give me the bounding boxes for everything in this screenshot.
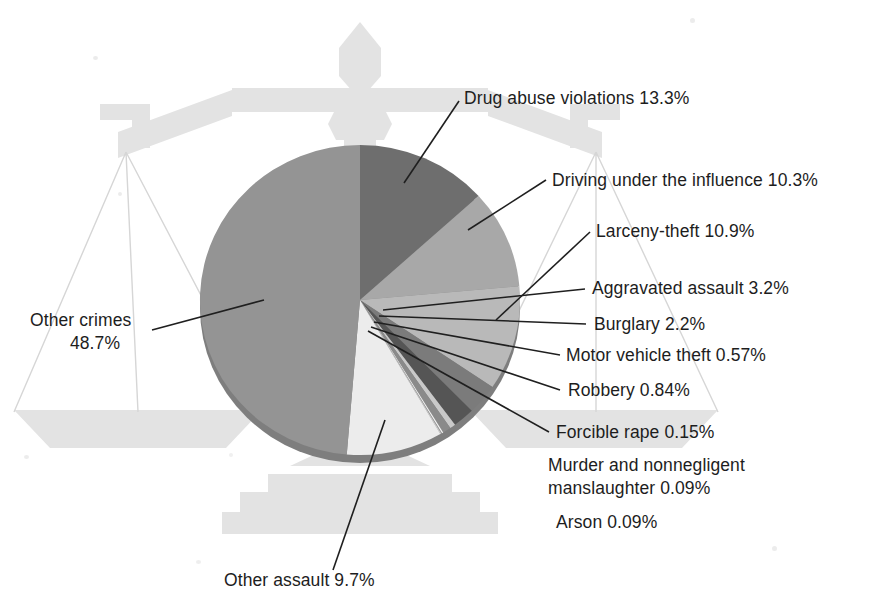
leader-aggravated (383, 289, 585, 310)
label-other-crimes-line1: Other crimes (30, 310, 160, 331)
leader-drug-abuse (404, 101, 459, 183)
label-other-crimes-line2: 48.7% (30, 333, 160, 354)
leader-other-assault (333, 420, 385, 570)
label-drug-abuse-violations: Drug abuse violations 13.3% (464, 88, 689, 109)
label-murder-line2: manslaughter 0.09% (548, 478, 710, 499)
label-arson: Arson 0.09% (556, 512, 657, 533)
label-driving-under-the-influence: Driving under the influence 10.3% (552, 170, 818, 191)
label-murder-line1: Murder and nonnegligent (548, 455, 745, 476)
label-forcible-rape: Forcible rape 0.15% (556, 422, 715, 443)
pie-chart-figure: Drug abuse violations 13.3% Driving unde… (0, 0, 876, 605)
leader-robbery (371, 327, 560, 390)
label-other-assault: Other assault 9.7% (224, 570, 375, 591)
label-burglary: Burglary 2.2% (594, 314, 705, 335)
label-motor-vehicle-theft: Motor vehicle theft 0.57% (566, 345, 766, 366)
leader-larceny (496, 232, 590, 320)
leader-lines (0, 0, 876, 605)
leader-dui (468, 180, 546, 230)
leader-other-crimes (152, 300, 264, 330)
label-aggravated-assault: Aggravated assault 3.2% (592, 278, 789, 299)
leader-forcible (368, 331, 549, 432)
leader-burglary (379, 316, 586, 324)
label-robbery: Robbery 0.84% (568, 380, 690, 401)
label-larceny-theft: Larceny-theft 10.9% (596, 221, 755, 242)
